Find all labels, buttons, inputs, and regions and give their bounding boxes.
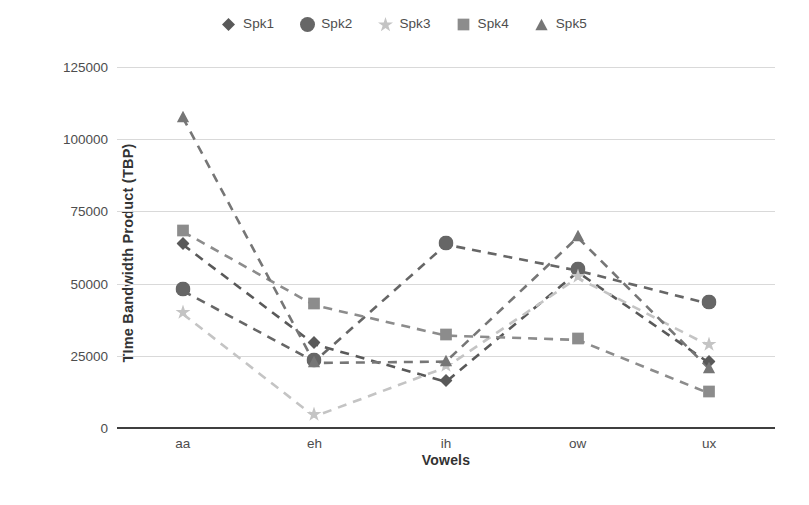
x-axis-tick-label: ux <box>702 436 716 451</box>
y-axis-tick-label: 50000 <box>70 276 108 291</box>
chart-container: Spk1Spk2Spk3Spk4Spk5 TIme Bandwidth Prod… <box>0 0 809 505</box>
legend-label: Spk1 <box>243 16 274 31</box>
star-icon <box>378 17 392 31</box>
x-axis-tick-label: eh <box>307 436 322 451</box>
y-axis-tick-label: 25000 <box>70 348 108 363</box>
legend-label: Spk2 <box>321 16 352 31</box>
data-point-spk4-eh <box>308 296 321 314</box>
legend-item-spk5[interactable]: Spk5 <box>535 16 587 31</box>
y-axis-tick-label: 0 <box>100 421 108 436</box>
y-axis-tick-label: 75000 <box>70 204 108 219</box>
chart-legend: Spk1Spk2Spk3Spk4Spk5 <box>0 16 809 31</box>
legend-item-spk3[interactable]: Spk3 <box>378 16 430 31</box>
legend-label: Spk3 <box>399 16 430 31</box>
data-point-spk4-aa <box>176 223 189 241</box>
x-axis-tick-label: ow <box>569 436 586 451</box>
data-point-spk4-ux <box>703 384 716 402</box>
x-axis-line <box>117 427 775 429</box>
data-point-spk5-ux <box>703 360 716 378</box>
legend-label: Spk4 <box>478 16 509 31</box>
plot-area: 1250001000007500050000250000 aaehihowux <box>117 67 775 428</box>
x-axis-tick-label: aa <box>175 436 190 451</box>
data-point-spk5-ih <box>440 353 453 371</box>
series-line-spk3 <box>183 278 709 417</box>
legend-item-spk2[interactable]: Spk2 <box>300 16 352 31</box>
legend-item-spk1[interactable]: Spk1 <box>222 16 274 31</box>
x-axis-tick-label: ih <box>441 436 452 451</box>
data-point-spk5-ow <box>571 228 584 246</box>
diamond-icon <box>222 17 236 31</box>
circle-icon <box>300 17 314 31</box>
data-point-spk4-ow <box>571 331 584 349</box>
square-icon <box>457 17 471 31</box>
legend-label: Spk5 <box>556 16 587 31</box>
data-point-spk2-aa <box>175 281 190 300</box>
data-point-spk5-aa <box>176 109 189 127</box>
data-point-spk1-eh <box>308 335 321 353</box>
data-point-spk3-ux <box>702 336 717 355</box>
data-point-spk2-ux <box>702 294 717 313</box>
y-axis-tick-label: 100000 <box>63 132 108 147</box>
data-point-spk3-eh <box>307 407 322 426</box>
legend-item-spk4[interactable]: Spk4 <box>457 16 509 31</box>
data-point-spk3-aa <box>175 304 190 323</box>
data-point-spk4-ih <box>440 327 453 345</box>
y-axis-tick-label: 125000 <box>63 60 108 75</box>
data-point-spk2-ih <box>439 235 454 254</box>
triangle-icon <box>535 17 549 31</box>
x-axis-title: Vowels <box>117 452 775 468</box>
data-point-spk3-ow <box>570 268 585 287</box>
data-point-spk5-eh <box>308 354 321 372</box>
